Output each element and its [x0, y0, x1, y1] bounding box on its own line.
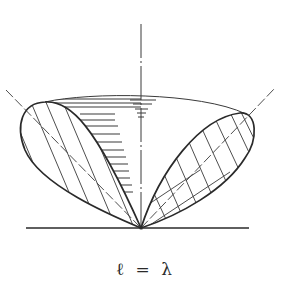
left-lobe-axis: [6, 90, 141, 228]
right-lobe: [141, 113, 254, 228]
figure-caption: ℓ = λ: [0, 259, 291, 280]
cone-rim-arc: [45, 96, 246, 114]
origin-point: [140, 227, 143, 230]
radiation-pattern-figure: [0, 0, 291, 284]
right-lobe-hatching: [140, 108, 262, 228]
right-lobe-axis: [141, 88, 275, 228]
